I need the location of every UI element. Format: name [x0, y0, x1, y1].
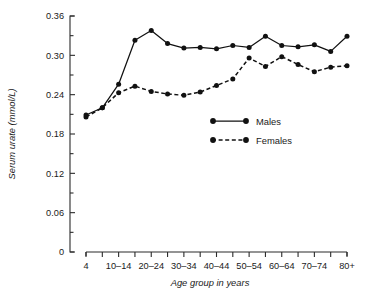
data-point-females	[296, 62, 301, 67]
data-point-males	[100, 105, 105, 110]
x-tick-label: 30–34	[171, 261, 197, 271]
x-axis-tick-labels: 410–1420–2430–3440–4450–5460–6470–7480+	[83, 261, 354, 271]
legend-marker-females-end	[243, 137, 249, 143]
data-point-males	[296, 44, 301, 49]
data-point-females	[312, 69, 317, 74]
data-point-males	[132, 38, 137, 43]
data-point-males	[214, 46, 219, 51]
data-point-females	[198, 90, 203, 95]
x-axis-ticks	[86, 252, 347, 257]
data-point-males	[230, 43, 235, 48]
x-axis-title: Age group in years	[170, 277, 250, 288]
legend-label-males: Males	[256, 116, 281, 127]
y-tick-label: 0.24	[46, 90, 64, 100]
series-markers-females	[84, 54, 350, 119]
data-point-males	[312, 42, 317, 47]
data-point-females	[132, 84, 137, 89]
data-point-males	[328, 49, 333, 54]
data-point-males	[116, 82, 121, 87]
data-point-females	[328, 65, 333, 70]
x-tick-label: 60–64	[269, 261, 295, 271]
data-point-females	[214, 83, 219, 88]
x-tick-label: 50–54	[236, 261, 262, 271]
y-tick-label: 0	[59, 247, 64, 257]
chart-canvas: 00.060.120.180.240.300.36 410–1420–2430–…	[0, 0, 370, 301]
y-tick-label: 0.06	[46, 208, 64, 218]
y-axis-title: Serum urate (mmol/L)	[6, 88, 17, 179]
plot-series	[84, 28, 350, 120]
y-tick-label: 0.12	[46, 169, 64, 179]
x-tick-label: 20–24	[138, 261, 164, 271]
data-point-males	[247, 45, 252, 50]
y-axis-tick-labels: 00.060.120.180.240.300.36	[46, 11, 64, 257]
data-point-females	[181, 93, 186, 98]
y-axis-ticks	[70, 16, 75, 252]
x-tick-label: 4	[83, 261, 88, 271]
y-tick-label: 0.36	[46, 11, 64, 21]
legend-marker-males-end	[243, 118, 249, 124]
y-tick-label: 0.18	[46, 129, 64, 139]
y-tick-label: 0.30	[46, 51, 64, 61]
data-point-females	[149, 89, 154, 94]
data-point-males	[149, 28, 154, 33]
data-point-females	[230, 76, 235, 81]
serum-urate-line-chart: 00.060.120.180.240.300.36 410–1420–2430–…	[0, 0, 370, 301]
y-axis: 00.060.120.180.240.300.36	[46, 11, 75, 257]
data-point-males	[263, 34, 268, 39]
legend-marker-females-start	[210, 137, 216, 143]
data-point-males	[165, 41, 170, 46]
x-axis: 410–1420–2430–3440–4450–5460–6470–7480+	[83, 252, 354, 271]
data-point-females	[165, 92, 170, 97]
legend-marker-males-start	[210, 118, 216, 124]
data-point-males	[198, 45, 203, 50]
legend-label-females: Females	[256, 135, 292, 146]
x-tick-label: 10–14	[106, 261, 132, 271]
data-point-males	[345, 34, 350, 39]
data-point-males	[84, 112, 89, 117]
legend: Males Females	[210, 116, 292, 146]
data-point-females	[247, 55, 252, 60]
data-point-females	[279, 54, 284, 59]
series-line-males	[86, 30, 347, 115]
data-point-females	[116, 90, 121, 95]
data-point-females	[345, 63, 350, 68]
x-tick-label: 40–44	[204, 261, 230, 271]
x-tick-label: 70–74	[302, 261, 328, 271]
x-tick-label: 80+	[339, 261, 355, 271]
data-point-females	[263, 64, 268, 69]
data-point-males	[181, 46, 186, 51]
data-point-males	[279, 43, 284, 48]
